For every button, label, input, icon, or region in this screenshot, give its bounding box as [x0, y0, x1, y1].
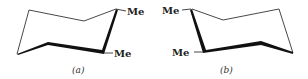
chair-b-me-bond-top: [182, 9, 191, 10]
chair-b-me-label-bottom: Me: [172, 47, 189, 58]
chair-a-caption: (a): [72, 65, 85, 75]
chair-conformations-diagram: Me Me (a) Me Me (b): [0, 0, 308, 79]
chair-b: Me Me (b): [162, 5, 293, 75]
chair-b-me-label-top: Me: [162, 5, 179, 16]
chair-a-front-wedge: [17, 9, 118, 55]
chair-a-me-label-top: Me: [127, 6, 144, 17]
chair-a-me-label-bottom: Me: [114, 48, 131, 59]
chair-b-front-wedge: [190, 9, 293, 54]
chair-a: Me Me (a): [17, 6, 144, 75]
chair-b-caption: (b): [220, 65, 233, 75]
